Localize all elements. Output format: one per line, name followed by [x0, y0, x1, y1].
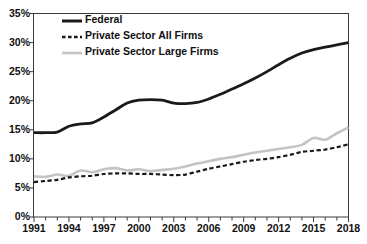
y-tick-label-wrap: 0% — [0, 211, 30, 222]
data-series-group — [34, 43, 349, 183]
legend-swatch-icon — [62, 13, 82, 25]
legend-label: Private Sector Large Firms — [85, 45, 219, 57]
y-tick-label-wrap: 5% — [0, 182, 30, 193]
y-tick-label-wrap: 20% — [0, 95, 30, 106]
legend-swatch-icon — [62, 45, 82, 57]
legend-item: Private Sector Large Firms — [62, 44, 219, 58]
y-tick-label-wrap: 10% — [0, 153, 30, 164]
legend-item: Federal — [62, 12, 122, 26]
series-line — [34, 144, 349, 182]
legend-swatch-icon — [62, 29, 82, 41]
series-line — [34, 127, 349, 176]
y-tick-label-wrap: 30% — [0, 37, 30, 48]
x-tick-label: 2018 — [329, 223, 367, 234]
y-tick-label: 35% — [0, 8, 30, 19]
y-tick-label-wrap: 15% — [0, 124, 30, 135]
y-tick-label-wrap: 25% — [0, 66, 30, 77]
y-tick-label: 25% — [0, 66, 30, 77]
y-tick-label: 30% — [0, 37, 30, 48]
y-tick-label: 10% — [0, 153, 30, 164]
y-tick-label: 0% — [0, 211, 30, 222]
y-tick-label: 5% — [0, 182, 30, 193]
y-tick-label-wrap: 35% — [0, 8, 30, 19]
line-chart: 35%30%25%20%15%10%5%0% 19911994199720002… — [0, 0, 367, 244]
legend-label: Private Sector All Firms — [85, 29, 203, 41]
legend-item: Private Sector All Firms — [62, 28, 203, 42]
y-tick-label: 20% — [0, 95, 30, 106]
y-tick-label: 15% — [0, 124, 30, 135]
legend-label: Federal — [85, 13, 122, 25]
